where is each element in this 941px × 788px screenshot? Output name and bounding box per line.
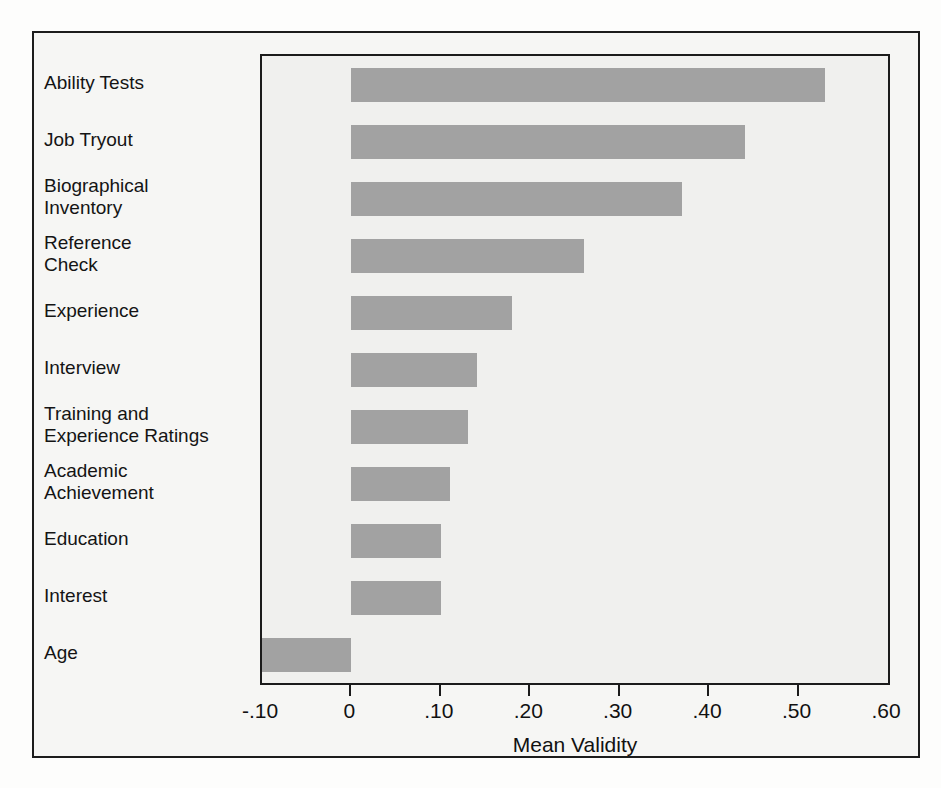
x-axis-tick-label: .50	[782, 699, 811, 723]
category-label-line: Reference	[44, 232, 242, 254]
category-label: Education	[44, 528, 242, 550]
category-label-line: Training and	[44, 403, 242, 425]
bar	[351, 296, 512, 330]
category-label-line: Job Tryout	[44, 129, 242, 151]
bars-container	[262, 56, 888, 683]
category-label: BiographicalInventory	[44, 175, 242, 219]
category-label-line: Experience Ratings	[44, 425, 242, 447]
x-axis-tick-label: .20	[514, 699, 543, 723]
category-label: Interview	[44, 357, 242, 379]
figure-frame: Ability TestsJob TryoutBiographicalInven…	[32, 31, 920, 758]
x-axis-ticks	[260, 683, 890, 697]
category-axis-labels: Ability TestsJob TryoutBiographicalInven…	[34, 33, 256, 760]
bar-chart: Ability TestsJob TryoutBiographicalInven…	[34, 33, 922, 760]
category-label: Job Tryout	[44, 129, 242, 151]
bar	[262, 638, 351, 672]
category-label-line: Check	[44, 254, 242, 276]
category-label-line: Age	[44, 642, 242, 664]
category-label: Ability Tests	[44, 72, 242, 94]
x-axis-tick	[797, 683, 799, 696]
x-axis-tick	[528, 683, 530, 696]
x-axis-tick-label: 0	[344, 699, 356, 723]
category-label: AcademicAchievement	[44, 460, 242, 504]
x-axis-tick	[349, 683, 351, 696]
bar	[351, 581, 440, 615]
x-axis-title: Mean Validity	[260, 733, 890, 757]
bar	[351, 353, 476, 387]
category-label: Age	[44, 642, 242, 664]
bar	[351, 467, 449, 501]
scanned-page-background: tests were used more frequently thanothe…	[0, 0, 941, 788]
category-label: Training andExperience Ratings	[44, 403, 242, 447]
bar	[351, 239, 584, 273]
category-label-line: Academic	[44, 460, 242, 482]
bar	[351, 68, 825, 102]
category-label-line: Ability Tests	[44, 72, 242, 94]
bar	[351, 410, 467, 444]
category-label-line: Biographical	[44, 175, 242, 197]
x-axis-tick	[439, 683, 441, 696]
category-label-line: Interest	[44, 585, 242, 607]
bar	[351, 125, 744, 159]
x-axis-tick-label: .30	[603, 699, 632, 723]
category-label: ReferenceCheck	[44, 232, 242, 276]
category-label-line: Interview	[44, 357, 242, 379]
category-label-line: Achievement	[44, 482, 242, 504]
category-label-line: Experience	[44, 300, 242, 322]
x-axis-tick-label: .60	[871, 699, 900, 723]
category-label-line: Education	[44, 528, 242, 550]
x-axis-tick	[707, 683, 709, 696]
category-label: Interest	[44, 585, 242, 607]
category-label: Experience	[44, 300, 242, 322]
plot-area	[260, 54, 890, 685]
category-label-line: Inventory	[44, 197, 242, 219]
x-axis-tick-label: .10	[424, 699, 453, 723]
x-axis-tick-label: .40	[693, 699, 722, 723]
x-axis-tick-label: -.10	[242, 699, 278, 723]
bar	[351, 182, 682, 216]
bar	[351, 524, 440, 558]
x-axis-tick	[618, 683, 620, 696]
